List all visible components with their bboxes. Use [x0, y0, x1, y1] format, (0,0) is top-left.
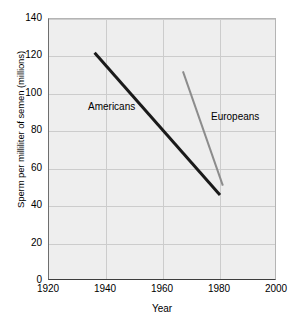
x-tick-label: 2000 [252, 284, 294, 294]
series-overlay [49, 19, 276, 280]
x-tick-label: 1980 [195, 284, 243, 294]
plot-area [48, 18, 276, 280]
y-tick-label: 120 [2, 50, 42, 60]
y-tick-label: 60 [2, 163, 42, 173]
y-tick-label: 80 [2, 125, 42, 135]
x-axis-title: Year [48, 303, 276, 314]
y-tick-label: 100 [2, 88, 42, 98]
x-tick-label: 1960 [138, 284, 186, 294]
line-series-europeans [183, 71, 223, 185]
y-tick-label: 20 [2, 238, 42, 248]
y-tick-label: 40 [2, 200, 42, 210]
x-tick-label: 1920 [24, 284, 72, 294]
chart-figure: Sperm per milliliter of semen (millions)… [0, 0, 294, 323]
series-annotation-americans: Americans [88, 101, 135, 112]
series-annotation-europeans: Europeans [211, 111, 259, 122]
x-tick-label: 1940 [81, 284, 129, 294]
y-tick-label: 140 [2, 13, 42, 23]
